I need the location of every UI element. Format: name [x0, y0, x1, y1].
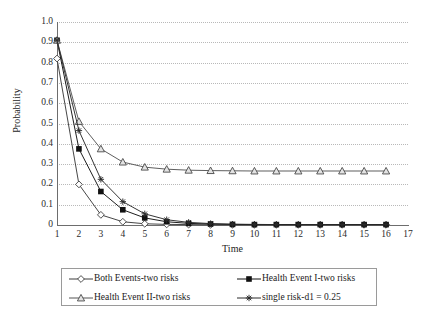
asterisk-marker: [251, 221, 257, 227]
y-tick-label: 0.8: [41, 58, 53, 67]
hollow-triangle-icon: [68, 291, 94, 305]
hollow-diamond-marker: [76, 181, 83, 188]
x-tick-label: 13: [309, 229, 331, 240]
filled-square-marker: [120, 207, 126, 213]
legend-label: Both Events-two risks: [94, 273, 178, 284]
x-tick-label: 2: [68, 229, 90, 240]
x-tick-label: 17: [397, 229, 419, 240]
x-axis-title: Time: [57, 243, 408, 254]
legend-item-health-event-ii[interactable]: Health Event II-two risks: [62, 288, 230, 307]
chart-legend: Both Events-two risks Health Event I-two…: [61, 268, 377, 306]
asterisk-marker: [246, 294, 252, 300]
x-tick-label: 9: [222, 229, 244, 240]
filled-square-marker: [76, 146, 82, 152]
hollow-triangle-marker: [119, 158, 126, 165]
x-tick-label: 10: [243, 229, 265, 240]
hollow-diamond-marker: [119, 218, 126, 225]
legend-item-health-event-i[interactable]: Health Event I-two risks: [230, 269, 378, 288]
legend-label: Health Event II-two risks: [94, 292, 190, 303]
x-tick-label: 12: [287, 229, 309, 240]
asterisk-marker: [207, 220, 213, 226]
legend-item-both-events[interactable]: Both Events-two risks: [62, 269, 230, 288]
x-tick-label: 6: [156, 229, 178, 240]
x-tick-label: 3: [90, 229, 112, 240]
y-tick-label: 0.4: [41, 139, 53, 148]
filled-square-marker: [246, 276, 252, 282]
asterisk-marker: [163, 217, 169, 223]
legend-item-single-risk[interactable]: single risk-d1 = 0.25: [230, 288, 378, 307]
x-tick-label: 5: [134, 229, 156, 240]
legend-label: Health Event I-two risks: [262, 273, 355, 284]
filled-square-marker: [98, 189, 104, 195]
x-tick-label: 8: [200, 229, 222, 240]
series-3: [54, 37, 389, 228]
x-tick-label: 4: [112, 229, 134, 240]
hollow-diamond-marker: [54, 55, 61, 62]
asterisk-marker: [54, 37, 60, 43]
hollow-diamond-marker: [97, 211, 104, 218]
hollow-diamond-marker: [78, 275, 85, 282]
chart-figure: 00.10.20.30.40.50.60.70.80.91.0 12345678…: [0, 0, 428, 313]
y-tick-label: 0.6: [41, 98, 53, 107]
x-tick-label: 11: [265, 229, 287, 240]
y-tick-label: 0: [48, 220, 53, 229]
y-tick-label: 0.1: [41, 200, 53, 209]
asterisk-marker: [383, 221, 389, 227]
legend-label: single risk-d1 = 0.25: [262, 292, 341, 303]
asterisk-marker: [273, 221, 279, 227]
y-tick-label: 0.5: [41, 119, 53, 128]
asterisk-marker: [361, 221, 367, 227]
x-tick-label: 7: [178, 229, 200, 240]
series-0: [54, 55, 390, 228]
x-tick-label: 16: [375, 229, 397, 240]
asterisk-marker: [98, 176, 104, 182]
y-tick-label: 0.3: [41, 159, 53, 168]
asterisk-marker: [317, 221, 323, 227]
series-1: [54, 37, 389, 227]
y-axis-title: Probability: [11, 64, 22, 158]
y-tick-label: 0.2: [41, 179, 53, 188]
hollow-diamond-marker: [141, 220, 148, 227]
series-layer: [57, 22, 408, 225]
filled-square-icon: [236, 272, 262, 286]
y-tick-label: 0.9: [41, 37, 53, 46]
asterisk-marker: [229, 221, 235, 227]
asterisk-icon: [236, 291, 262, 305]
x-tick-label: 15: [353, 229, 375, 240]
y-tick-label: 1.0: [41, 17, 53, 26]
asterisk-marker: [185, 219, 191, 225]
series-2: [53, 37, 389, 174]
asterisk-marker: [339, 221, 345, 227]
hollow-diamond-icon: [68, 272, 94, 286]
y-tick-label: 0.7: [41, 78, 53, 87]
asterisk-marker: [76, 127, 82, 133]
x-tick-label: 1: [46, 229, 68, 240]
asterisk-marker: [120, 198, 126, 204]
x-tick-label: 14: [331, 229, 353, 240]
asterisk-marker: [295, 221, 301, 227]
asterisk-marker: [142, 211, 148, 217]
